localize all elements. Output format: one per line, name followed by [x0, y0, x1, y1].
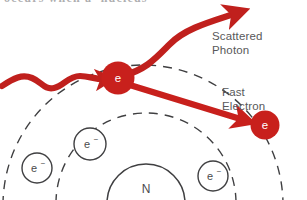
orbital-electron-1-label: e — [31, 162, 37, 174]
fast-electron-particle: e — [251, 111, 280, 140]
orbital-electron-1: e − — [22, 153, 52, 183]
orbital-electron-3: e − — [198, 161, 228, 191]
struck-electron: e — [102, 62, 135, 95]
compton-scattering-figure: occurs when a nucleus — [0, 0, 307, 200]
orbital-electron-2-charge: − — [94, 135, 99, 144]
struck-electron-label: e — [115, 72, 121, 84]
orbital-electron-3-charge: − — [217, 167, 222, 176]
scattered-photon-ray — [122, 12, 240, 76]
incident-photon-ray — [2, 76, 106, 88]
orbital-electron-2-label: e — [84, 138, 90, 150]
nucleus-label: N — [142, 182, 151, 196]
orbital-electron-3-label: e — [207, 170, 213, 182]
fast-electron-track — [120, 82, 247, 121]
fast-electron-label: e — [262, 119, 268, 131]
orbital-electron-2: e − — [74, 128, 106, 160]
diagram-canvas: N e − e − e − — [0, 0, 307, 200]
orbital-electron-1-charge: − — [41, 159, 46, 168]
